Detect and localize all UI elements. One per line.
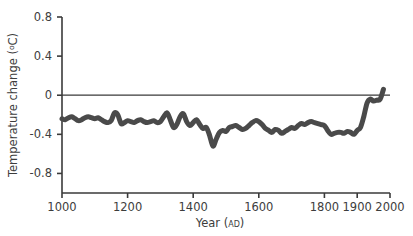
y-axis-tick-labels: 0.80.40-0.4-0.8 (30, 10, 52, 180)
svg-text:Temperature change (oC): Temperature change (oC) (6, 33, 20, 178)
y-tick-label: -0.8 (30, 166, 52, 180)
y-tick-label: 0 (45, 88, 52, 102)
y-tick-label: 0.8 (34, 10, 52, 24)
x-tick-label: 1400 (179, 200, 208, 214)
y-axis-title-unit: C) (6, 33, 20, 46)
x-axis-title: Year (AD) (195, 216, 245, 230)
axis-spines (62, 17, 390, 193)
temperature-change-chart: 0.80.40-0.4-0.8 100012001400160018001900… (0, 0, 413, 236)
y-axis-title: Temperature change (oC) (6, 33, 20, 178)
x-tick-label: 1600 (244, 200, 273, 214)
x-tick-label: 1800 (310, 200, 339, 214)
y-tick-label: -0.4 (30, 127, 52, 141)
x-tick-label: 1000 (47, 200, 76, 214)
x-axis-tick-labels: 1000120014001600180019002000 (47, 200, 404, 214)
x-tick-label: 1200 (113, 200, 142, 214)
x-tick-label: 2000 (375, 200, 404, 214)
x-axis-title-close: ) (240, 216, 245, 230)
temperature-series-line (62, 89, 383, 146)
x-axis-title-main: Year ( (195, 216, 229, 230)
y-tick-label: 0.4 (34, 49, 52, 63)
chart-canvas: 0.80.40-0.4-0.8 100012001400160018001900… (0, 0, 413, 236)
x-tick-label: 1900 (343, 200, 372, 214)
y-axis-title-main: Temperature change ( (6, 50, 20, 178)
svg-text:Year (AD): Year (AD) (195, 216, 245, 230)
x-axis-title-era: AD (228, 220, 240, 229)
